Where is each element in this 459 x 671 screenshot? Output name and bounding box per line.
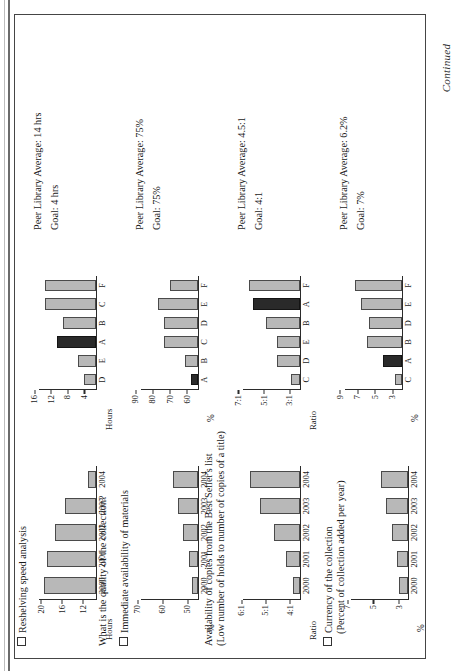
peer-bar <box>395 374 402 386</box>
peer-bar-group: E <box>345 295 402 314</box>
peer-bar-group: E <box>141 295 198 314</box>
peer-y-tick: 5:1 <box>259 390 268 406</box>
trend-x-tick-label: 2000 <box>302 577 311 594</box>
peer-x-tick-label: A <box>98 339 107 345</box>
peer-y-axis-label: Ratio <box>308 411 318 430</box>
trend-x-tick-label: 2004 <box>98 471 107 488</box>
trend-plot-area: 20002001200220032004 <box>351 466 409 600</box>
peer-y-tick: 80 <box>148 390 157 403</box>
peer-bar <box>164 317 198 329</box>
peer-bar <box>266 317 300 329</box>
peer-bar-group: C <box>141 333 198 352</box>
peer-y-tick: 9 <box>335 390 344 399</box>
figure-frame: Reshelving speed analysis 121620Hours200… <box>14 14 426 659</box>
peer-y-tick: 7:1 <box>233 390 242 406</box>
metric-section: Immediate availability of materials 5060… <box>119 15 222 660</box>
peer-y-tick: 5 <box>370 390 379 399</box>
peer-x-tick-label: A <box>200 377 209 383</box>
trend-bar <box>274 524 300 540</box>
section-notes: Peer Library Average: 6.2%Goal: 7% <box>335 116 369 230</box>
trend-bar-group: 2001 <box>351 546 408 573</box>
peer-y-tick: 8 <box>63 390 72 399</box>
peer-bar-group: E <box>243 333 300 352</box>
trend-bar <box>260 498 300 514</box>
trend-bar-group: 2004 <box>243 466 300 493</box>
peer-y-tick: 12 <box>46 390 55 403</box>
empty-checkbox-icon[interactable] <box>17 637 26 646</box>
trend-bar-group: 2004 <box>141 466 198 493</box>
peer-x-tick-label: F <box>404 283 413 288</box>
trend-bar <box>88 471 96 487</box>
trend-y-tick: 16 <box>57 600 66 613</box>
note-line: Peer Library Average: 4.5:1 <box>233 117 250 230</box>
trend-plot-area: 20002001200220032004 <box>243 466 301 600</box>
peer-bar <box>84 374 96 386</box>
trend-bar <box>381 471 408 487</box>
peer-x-tick-label: A <box>404 358 413 364</box>
trend-bar-group: 2004 <box>351 466 408 493</box>
peer-bar-group: A <box>243 295 300 314</box>
empty-checkbox-icon[interactable] <box>119 637 128 646</box>
peer-x-tick-label: C <box>200 339 209 345</box>
peer-x-tick-label: F <box>302 283 311 288</box>
metric-section: 4:15:16:1Ratio20002001200220032004 3:15:… <box>221 15 324 660</box>
peer-y-axis-label: % <box>410 414 420 422</box>
trend-x-tick-label: 2001 <box>302 551 311 568</box>
trend-chart: 357%20002001200220032004 <box>351 464 425 634</box>
trend-y-tick: 12 <box>78 600 87 613</box>
trend-bar-group: 2003 <box>243 493 300 520</box>
peer-y-tick: 3:1 <box>285 390 294 406</box>
trend-y-axis: 121620 <box>39 600 97 634</box>
peer-y-tick: 90 <box>131 390 140 403</box>
peer-plot-area: CABDEF <box>345 276 403 390</box>
peer-chart: 3579%CABDEF <box>345 274 419 424</box>
peer-x-tick-label: A <box>302 301 311 307</box>
peer-x-tick-label: D <box>200 320 209 326</box>
trend-y-tick: 70 <box>133 600 142 613</box>
trend-y-axis-label: % <box>416 624 426 632</box>
trend-bar <box>192 577 198 593</box>
trend-bar <box>386 498 408 514</box>
trend-bar-group: 2001 <box>39 546 96 573</box>
trend-bar-group: 2001 <box>141 546 198 573</box>
section-heading: Currency of the collection <box>323 526 334 646</box>
trend-y-tick: 50 <box>183 600 192 613</box>
catchword: Continued <box>433 14 457 134</box>
peer-x-tick-label: B <box>404 339 413 345</box>
peer-bar <box>383 355 402 367</box>
peer-bar <box>277 355 300 367</box>
peer-bar <box>78 355 96 367</box>
empty-checkbox-icon[interactable] <box>323 637 332 646</box>
peer-bar <box>367 336 402 348</box>
peer-y-axis: 3579 <box>345 390 403 424</box>
section-heading: Reshelving speed analysis <box>17 526 28 646</box>
peer-x-tick-label: B <box>302 320 311 326</box>
peer-bar-group: A <box>141 370 198 389</box>
trend-bar <box>183 524 198 540</box>
trend-y-axis-label: Ratio <box>308 621 318 640</box>
trend-y-axis: 506070 <box>141 600 199 634</box>
catchword-label: Continued <box>440 13 452 123</box>
peer-bar-group: D <box>243 351 300 370</box>
peer-y-axis: 3:15:17:1 <box>243 390 301 424</box>
peer-bar-group: A <box>345 351 402 370</box>
peer-bar <box>355 280 402 292</box>
peer-x-tick-label: E <box>302 339 311 344</box>
trend-y-tick: 60 <box>158 600 167 613</box>
trend-y-tick: 7 <box>343 600 352 609</box>
trend-x-tick-label: 2000 <box>410 577 419 594</box>
section-question: What is the quality of the collection? <box>97 496 108 647</box>
peer-x-tick-label: C <box>404 377 413 383</box>
page-top-rule <box>8 0 10 671</box>
section-heading: Immediate availability of materials <box>119 490 130 646</box>
peer-y-axis: 60708090 <box>141 390 199 424</box>
peer-x-tick-label: F <box>98 283 107 288</box>
peer-x-tick-label: D <box>404 320 413 326</box>
trend-x-tick-label: 2001 <box>410 551 419 568</box>
trend-bar <box>397 551 408 567</box>
trend-plot-area: 20002001200220032004 <box>141 466 199 600</box>
peer-bar <box>191 374 198 386</box>
trend-x-tick-label: 2004 <box>410 471 419 488</box>
trend-bar <box>173 471 198 487</box>
peer-y-tick: 16 <box>30 390 39 403</box>
